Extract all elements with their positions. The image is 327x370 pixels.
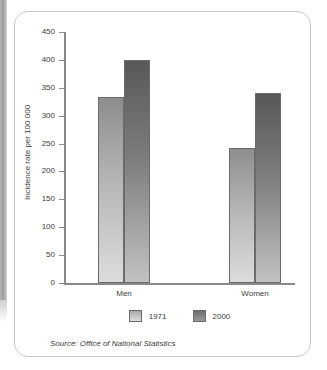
x-category-label-men: Men bbox=[89, 289, 159, 298]
y-tick-mark bbox=[59, 171, 64, 172]
bar-women-2000 bbox=[255, 93, 281, 283]
y-tick-mark bbox=[59, 255, 64, 256]
y-tick-label: 0 bbox=[15, 279, 55, 287]
y-tick-label: 150 bbox=[15, 195, 55, 203]
y-tick-mark bbox=[59, 88, 64, 89]
y-tick-mark bbox=[59, 227, 64, 228]
y-tick-mark bbox=[59, 144, 64, 145]
y-tick-label: 450 bbox=[15, 28, 55, 36]
legend-entry-2000: 2000 bbox=[193, 310, 231, 322]
y-axis-line bbox=[64, 32, 66, 284]
bar-women-1971 bbox=[229, 148, 255, 283]
y-tick-label: 250 bbox=[15, 140, 55, 148]
legend-label-2000: 2000 bbox=[213, 312, 231, 321]
x-category-label-women: Women bbox=[220, 289, 290, 298]
y-tick-mark bbox=[59, 60, 64, 61]
bar-men-1971 bbox=[98, 97, 124, 283]
y-tick-mark bbox=[59, 116, 64, 117]
legend-label-1971: 1971 bbox=[149, 312, 167, 321]
y-tick-mark bbox=[59, 32, 64, 33]
y-tick-label: 350 bbox=[15, 84, 55, 92]
y-tick-mark bbox=[59, 199, 64, 200]
y-tick-mark bbox=[59, 283, 64, 284]
legend-swatch-2000 bbox=[193, 310, 206, 322]
legend-swatch-1971 bbox=[129, 310, 142, 322]
legend-entry-1971: 1971 bbox=[129, 310, 167, 322]
y-tick-label: 300 bbox=[15, 112, 55, 120]
source-note: Source: Office of National Statistics bbox=[50, 339, 175, 348]
y-tick-label: 200 bbox=[15, 167, 55, 175]
y-tick-label: 100 bbox=[15, 223, 55, 231]
y-tick-label: 50 bbox=[15, 251, 55, 259]
x-axis-line bbox=[64, 283, 295, 285]
bar-chart: Incidence rate per 100 000 0501001502002… bbox=[0, 0, 327, 370]
chart-legend: 19712000 bbox=[64, 310, 295, 322]
y-tick-label: 400 bbox=[15, 56, 55, 64]
bar-men-2000 bbox=[124, 60, 150, 283]
